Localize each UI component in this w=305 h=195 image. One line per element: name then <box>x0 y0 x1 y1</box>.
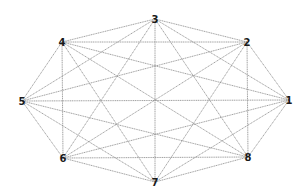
edge-2-3 <box>155 19 247 42</box>
node-label-7: 7 <box>152 177 159 188</box>
node-label-3: 3 <box>152 14 159 25</box>
edge-7-8 <box>155 157 248 182</box>
edge-1-6 <box>63 100 289 158</box>
edge-3-6 <box>63 19 155 158</box>
node-label-4: 4 <box>59 37 66 48</box>
node-label-8: 8 <box>245 152 252 163</box>
edge-5-6 <box>22 101 63 158</box>
edge-3-4 <box>62 19 155 42</box>
edge-1-4 <box>62 42 289 100</box>
edge-3-5 <box>22 19 155 101</box>
edge-4-6 <box>62 42 63 158</box>
edge-1-3 <box>155 19 289 100</box>
edge-3-8 <box>155 19 248 157</box>
edge-4-5 <box>22 42 62 101</box>
edge-5-7 <box>22 101 155 182</box>
edge-1-2 <box>247 42 289 100</box>
node-label-5: 5 <box>19 96 26 107</box>
node-label-2: 2 <box>244 37 251 48</box>
edge-2-8 <box>247 42 248 157</box>
edge-1-8 <box>248 100 289 157</box>
edge-6-7 <box>63 158 155 182</box>
graph-diagram: 12345678 <box>0 0 305 195</box>
edge-2-7 <box>155 42 247 182</box>
node-label-6: 6 <box>60 153 67 164</box>
node-label-1: 1 <box>286 95 293 106</box>
edge-6-8 <box>63 157 248 158</box>
graph-canvas: 12345678 <box>0 0 305 195</box>
